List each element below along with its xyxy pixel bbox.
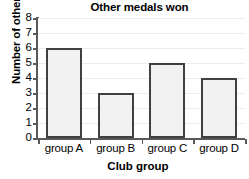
bar-chart: Other medals won Number of other medals … — [0, 0, 249, 179]
bar — [98, 93, 134, 138]
x-tick-label: group A — [38, 142, 90, 154]
x-tick-label: group C — [142, 142, 194, 154]
plot-area — [38, 18, 245, 138]
x-tick-label: group D — [193, 142, 245, 154]
x-axis-title: Club group — [38, 160, 238, 172]
y-tick-label: 4 — [18, 72, 32, 84]
y-tick-mark — [33, 48, 37, 50]
gridline — [38, 18, 245, 19]
y-tick-label: 8 — [18, 12, 32, 24]
x-tick-label: group B — [90, 142, 142, 154]
y-tick-label: 6 — [18, 42, 32, 54]
bar — [149, 63, 185, 138]
y-tick-label: 5 — [18, 57, 32, 69]
y-tick-label: 2 — [18, 102, 32, 114]
y-tick-label: 0 — [18, 132, 32, 144]
y-tick-mark — [33, 93, 37, 95]
y-tick-mark — [33, 18, 37, 20]
y-tick-label: 7 — [18, 27, 32, 39]
x-tick-mark — [245, 139, 247, 144]
y-tick-mark — [33, 63, 37, 65]
y-tick-mark — [33, 123, 37, 125]
y-tick-label: 3 — [18, 87, 32, 99]
bar — [46, 48, 82, 138]
gridline — [38, 33, 245, 34]
y-tick-mark — [33, 78, 37, 80]
chart-title: Other medals won — [30, 1, 249, 13]
y-tick-mark — [33, 108, 37, 110]
y-tick-label: 1 — [18, 117, 32, 129]
y-tick-mark — [33, 138, 37, 140]
y-tick-mark — [33, 33, 37, 35]
bar — [201, 78, 237, 138]
